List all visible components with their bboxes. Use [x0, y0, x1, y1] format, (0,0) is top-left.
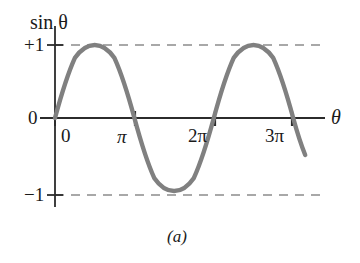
y-tick-label-zero: 0: [28, 108, 38, 127]
y-axis-title: sin θ: [30, 12, 68, 32]
x-tick-label-2pi: 2π: [188, 126, 207, 145]
sine-wave-figure: sin θ +1 0 −1 0 π 2π 3π θ (a): [0, 0, 360, 263]
x-tick-label-0: 0: [61, 126, 71, 145]
y-tick-label-plus-one: +1: [24, 35, 44, 54]
plot-canvas: [0, 0, 360, 263]
y-tick-label-minus-one: −1: [24, 185, 44, 204]
x-axis-title: θ: [331, 107, 341, 127]
figure-caption: (a): [167, 228, 187, 245]
x-tick-label-pi: π: [117, 127, 127, 146]
x-tick-label-3pi: 3π: [265, 126, 284, 145]
